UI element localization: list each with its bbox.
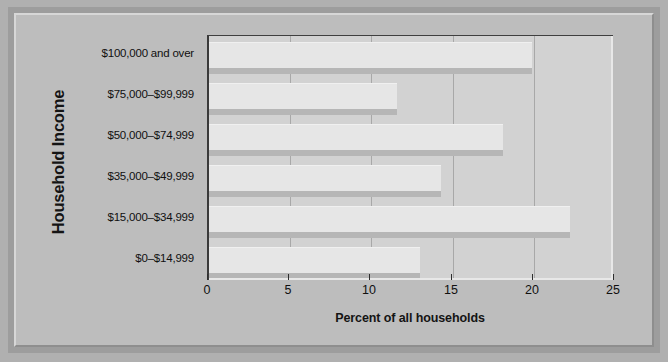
y-axis-tick-label: $100,000 and over bbox=[66, 47, 194, 59]
x-axis-ticks: 0510152025 bbox=[207, 280, 613, 308]
bar-bevel bbox=[525, 68, 532, 74]
x-tick-mark-15 bbox=[451, 274, 452, 280]
x-axis-tick-label: 10 bbox=[349, 283, 389, 297]
y-axis-tick-label: $50,000–$74,999 bbox=[66, 129, 194, 141]
bar bbox=[209, 247, 420, 279]
bar-face bbox=[209, 165, 441, 192]
plot-right-edge bbox=[611, 36, 613, 280]
bar-shadow bbox=[209, 109, 390, 115]
y-axis-tick-labels: $100,000 and over$75,000–$99,999$50,000–… bbox=[72, 35, 200, 280]
gridline-20 bbox=[534, 36, 535, 280]
bar-face bbox=[209, 206, 570, 233]
x-tick-mark-25 bbox=[613, 274, 614, 280]
y-axis-title: Household Income bbox=[46, 46, 70, 278]
chart-figure: Household Income $100,000 and over$75,00… bbox=[0, 0, 668, 362]
x-tick-mark-20 bbox=[532, 274, 533, 280]
bar-shadow bbox=[209, 68, 525, 74]
bar-shadow bbox=[209, 232, 563, 238]
bar-face bbox=[209, 124, 503, 151]
y-axis-tick-label: $15,000–$34,999 bbox=[66, 211, 194, 223]
bar-shadow bbox=[209, 150, 496, 156]
x-tick-mark-10 bbox=[369, 274, 370, 280]
plot-area bbox=[207, 35, 613, 280]
x-axis-tick-label: 15 bbox=[431, 283, 471, 297]
y-axis-tick-label: $35,000–$49,999 bbox=[66, 170, 194, 182]
y-axis-tick-label: $75,000–$99,999 bbox=[66, 88, 194, 100]
bar-bevel bbox=[563, 232, 570, 238]
x-axis-title: Percent of all households bbox=[207, 311, 613, 325]
x-tick-mark-0 bbox=[207, 274, 208, 280]
plot-inner bbox=[209, 36, 613, 280]
x-tick-mark-5 bbox=[288, 274, 289, 280]
x-axis-tick-label: 25 bbox=[593, 283, 633, 297]
bar-face bbox=[209, 83, 397, 110]
bar-face bbox=[209, 247, 420, 274]
bar bbox=[209, 42, 532, 74]
bar-bevel bbox=[434, 191, 441, 197]
bar bbox=[209, 165, 441, 197]
bar-face bbox=[209, 42, 532, 69]
bar bbox=[209, 83, 397, 115]
x-axis-tick-label: 20 bbox=[512, 283, 552, 297]
bar bbox=[209, 206, 570, 238]
x-axis-tick-label: 0 bbox=[187, 283, 227, 297]
bar-bevel bbox=[496, 150, 503, 156]
bar-bevel bbox=[390, 109, 397, 115]
x-axis-tick-label: 5 bbox=[268, 283, 308, 297]
bar bbox=[209, 124, 503, 156]
y-axis-tick-label: $0–$14,999 bbox=[66, 252, 194, 264]
bar-shadow bbox=[209, 191, 434, 197]
